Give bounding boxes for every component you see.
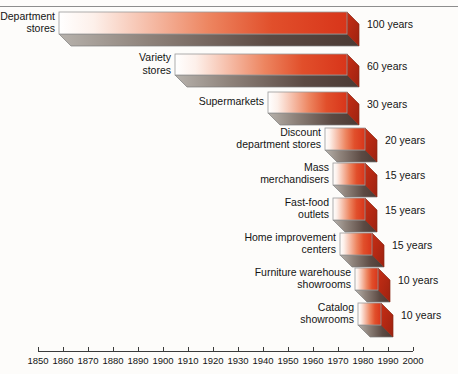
bar-front-face <box>333 163 365 185</box>
top-divider-rule <box>0 6 458 7</box>
x-axis-tick <box>88 347 89 351</box>
bar-front-face <box>358 303 381 325</box>
bar-value-label: 15 years <box>385 169 425 181</box>
x-axis-tick <box>213 347 214 351</box>
x-axis-tick-label: 1930 <box>224 355 252 366</box>
bar-front-face <box>268 92 347 113</box>
bar-1 <box>59 12 347 34</box>
x-axis-tick-label: 1950 <box>274 355 302 366</box>
x-axis-tick-label: 1860 <box>49 355 77 366</box>
bar-front-face <box>59 12 347 34</box>
bar-category-label: Discount department stores <box>236 126 321 151</box>
x-axis-tick <box>263 347 264 351</box>
bar-bottom-face <box>175 75 359 87</box>
x-axis-tick <box>63 347 64 351</box>
bar-category-label: Furniture warehouse showrooms <box>255 266 351 291</box>
x-axis-tick <box>38 347 39 351</box>
x-axis-tick-label: 1960 <box>299 355 327 366</box>
x-axis-tick-label: 1920 <box>199 355 227 366</box>
x-axis-tick-label: 1990 <box>374 355 402 366</box>
bar-value-label: 60 years <box>367 60 407 72</box>
bar-8 <box>355 268 378 290</box>
bar-value-label: 30 years <box>367 98 407 110</box>
bar-5 <box>333 163 365 185</box>
bar-6 <box>333 198 365 220</box>
x-axis-tick <box>388 347 389 351</box>
x-axis-tick <box>163 347 164 351</box>
x-axis-tick-label: 1910 <box>174 355 202 366</box>
x-axis-tick-label: 1870 <box>74 355 102 366</box>
x-axis-tick <box>313 347 314 351</box>
chart-canvas: Department storesVariety storesSupermark… <box>0 0 458 374</box>
bar-value-label: 15 years <box>392 239 432 251</box>
bar-category-label: Supermarkets <box>199 95 264 108</box>
bar-value-label: 10 years <box>401 309 441 321</box>
x-axis-tick <box>288 347 289 351</box>
bar-category-label: Home improvement centers <box>244 231 336 256</box>
x-axis-tick-label: 1900 <box>149 355 177 366</box>
bar-value-label: 20 years <box>385 134 425 146</box>
x-axis-tick-label: 1890 <box>124 355 152 366</box>
x-axis-tick-label: 1850 <box>24 355 52 366</box>
x-axis-tick <box>363 347 364 351</box>
bar-front-face <box>325 128 365 150</box>
x-axis-tick <box>138 347 139 351</box>
x-axis-tick-label: 1940 <box>249 355 277 366</box>
x-axis-tick <box>238 347 239 351</box>
bar-category-label: Fast-food outlets <box>285 196 329 221</box>
bar-front-face <box>333 198 365 220</box>
x-axis-tick <box>113 347 114 351</box>
bar-7 <box>340 233 372 255</box>
bar-front-face <box>340 233 372 255</box>
x-axis-line <box>38 351 413 352</box>
bar-value-label: 100 years <box>367 18 413 30</box>
bar-bottom-face <box>268 113 359 125</box>
bar-category-label: Department stores <box>0 10 55 35</box>
bar-category-label: Catalog showrooms <box>300 301 354 326</box>
bar-9 <box>358 303 381 325</box>
bar-4 <box>325 128 365 150</box>
bar-value-label: 15 years <box>385 204 425 216</box>
bar-category-label: Variety stores <box>139 51 171 76</box>
x-axis-tick-label: 1980 <box>349 355 377 366</box>
x-axis-tick-label: 2000 <box>399 355 427 366</box>
bar-value-label: 10 years <box>398 274 438 286</box>
bar-front-face <box>355 268 378 290</box>
bar-3 <box>268 92 347 113</box>
bar-2 <box>175 54 347 75</box>
bar-front-face <box>175 54 347 75</box>
bar-category-label: Mass merchandisers <box>260 161 329 186</box>
x-axis-tick <box>338 347 339 351</box>
bar-bottom-face <box>59 34 359 46</box>
x-axis-tick-label: 1970 <box>324 355 352 366</box>
x-axis-tick <box>188 347 189 351</box>
x-axis-tick-label: 1880 <box>99 355 127 366</box>
x-axis-tick <box>413 347 414 351</box>
